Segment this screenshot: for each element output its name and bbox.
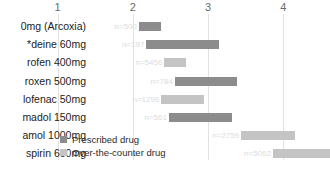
legend-label-otc: Over-the-counter drug	[72, 147, 165, 158]
row-label-3: roxen 500mg	[0, 75, 86, 87]
row-label-5: madol 150mg	[0, 111, 86, 123]
bar-value-label-1: n=197	[122, 40, 146, 49]
bar-value-label-0: n=500	[114, 22, 138, 31]
chart-legend: Prescribed drug Over-the-counter drug	[60, 133, 165, 159]
legend-swatch-icon-otc	[60, 149, 67, 156]
bar-7	[273, 149, 330, 158]
bar-value-label-7: n=5062	[244, 149, 273, 158]
gridline-3	[208, 14, 209, 160]
bar-2	[164, 58, 185, 67]
legend-label-prescribed: Prescribed drug	[72, 134, 139, 145]
bar-4	[161, 95, 203, 104]
bar-3	[175, 77, 237, 86]
bar-1	[146, 40, 218, 49]
row-label-4: lofenac 50mg	[0, 93, 86, 105]
bar-value-label-4: n=1296	[132, 95, 161, 104]
bar-value-label-5: n=561	[144, 113, 168, 122]
bar-value-label-2: n=5456	[136, 58, 165, 67]
row-label-2: rofen 400mg	[0, 56, 86, 68]
x-tick-label-1: 1	[54, 1, 60, 13]
row-label-0: 0mg (Arcoxia)	[0, 20, 86, 32]
bar-0	[139, 22, 162, 31]
x-tick-label-4: 4	[280, 1, 286, 13]
bar-5	[169, 113, 232, 122]
legend-item-prescribed: Prescribed drug	[60, 133, 165, 145]
x-tick-label-3: 3	[205, 1, 211, 13]
legend-swatch-icon-prescribed	[60, 136, 67, 143]
x-tick-label-2: 2	[130, 1, 136, 13]
bar-value-label-3: n=784	[150, 77, 174, 86]
legend-item-otc: Over-the-counter drug	[60, 146, 165, 158]
bar-6	[241, 131, 295, 140]
row-label-1: deine 60mg*	[0, 38, 86, 50]
bar-value-label-6: n=2759	[212, 131, 241, 140]
